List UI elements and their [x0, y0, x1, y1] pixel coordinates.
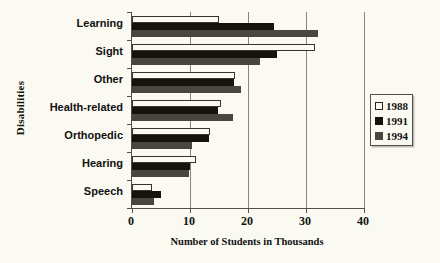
bar-other-1994	[132, 86, 241, 93]
y-axis-tick	[127, 12, 132, 13]
legend: 198819911994	[370, 94, 413, 146]
legend-item-1991[interactable]: 1991	[375, 113, 412, 128]
bar-learning-1994	[132, 30, 318, 37]
y-axis-tick	[127, 96, 132, 97]
bar-health-related-1988	[132, 100, 221, 107]
category-label-sight: Sight	[96, 44, 124, 58]
bar-group	[132, 44, 364, 65]
bar-health-related-1994	[132, 114, 233, 121]
bar-chart: Disabilities LearningSightOtherHealth-re…	[0, 0, 440, 263]
bar-learning-1988	[132, 16, 219, 23]
x-axis-tick	[248, 208, 249, 213]
y-axis-tick	[127, 208, 132, 209]
legend-label-1994: 1994	[386, 130, 408, 142]
x-axis-tick	[132, 208, 133, 213]
legend-swatch-1991	[375, 117, 383, 125]
bar-hearing-1991	[132, 163, 190, 170]
category-label-hearing: Hearing	[82, 156, 123, 170]
bar-sight-1991	[132, 51, 277, 58]
plot-area	[131, 12, 364, 209]
bar-group	[132, 128, 364, 149]
x-axis-tick-labels: 010203040	[131, 214, 363, 230]
y-axis-tick	[127, 152, 132, 153]
bar-sight-1988	[132, 44, 315, 51]
bar-speech-1988	[132, 184, 152, 191]
category-label-speech: Speech	[84, 184, 123, 198]
bar-sight-1994	[132, 58, 260, 65]
bar-group	[132, 100, 364, 121]
y-axis-tick	[127, 40, 132, 41]
x-tick-label-20: 20	[241, 214, 253, 229]
bar-other-1991	[132, 79, 234, 86]
x-axis-tick	[364, 208, 365, 213]
bar-orthopedic-1988	[132, 128, 210, 135]
y-axis-title: Disabilities	[0, 0, 40, 215]
legend-swatch-1994	[375, 132, 383, 140]
bar-orthopedic-1994	[132, 142, 192, 149]
x-axis-title: Number of Students in Thousands	[131, 236, 363, 247]
category-label-learning: Learning	[77, 16, 123, 30]
legend-item-1994[interactable]: 1994	[375, 128, 412, 143]
bar-hearing-1988	[132, 156, 196, 163]
bar-group	[132, 16, 364, 37]
bar-hearing-1994	[132, 170, 189, 177]
bar-group	[132, 184, 364, 205]
x-axis-tick	[190, 208, 191, 213]
legend-label-1991: 1991	[386, 115, 408, 127]
y-axis-tick	[127, 180, 132, 181]
bar-health-related-1991	[132, 107, 218, 114]
bar-orthopedic-1991	[132, 135, 209, 142]
x-tick-label-40: 40	[357, 214, 369, 229]
x-axis-tick	[306, 208, 307, 213]
x-tick-label-30: 30	[299, 214, 311, 229]
category-label-other: Other	[94, 72, 123, 86]
legend-item-1988[interactable]: 1988	[375, 98, 412, 113]
bar-other-1988	[132, 72, 235, 79]
category-label-health-related: Health-related	[50, 100, 123, 114]
y-axis-tick	[127, 68, 132, 69]
legend-swatch-1988	[375, 102, 383, 110]
bar-speech-1994	[132, 198, 154, 205]
bar-group	[132, 72, 364, 93]
y-axis-title-text: Disabilities	[14, 80, 26, 134]
legend-label-1988: 1988	[386, 100, 408, 112]
x-tick-label-0: 0	[128, 214, 134, 229]
y-axis-category-labels: LearningSightOtherHealth-relatedOrthoped…	[36, 12, 128, 208]
y-axis-tick	[127, 124, 132, 125]
gridline	[364, 12, 365, 208]
bar-speech-1991	[132, 191, 161, 198]
bar-group	[132, 156, 364, 177]
category-label-orthopedic: Orthopedic	[64, 128, 123, 142]
x-tick-label-10: 10	[183, 214, 195, 229]
bar-learning-1991	[132, 23, 274, 30]
